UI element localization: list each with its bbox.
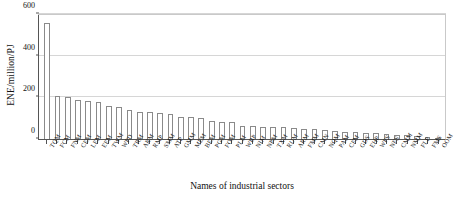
x-label-slot: GMM — [175, 144, 185, 178]
bar-slot — [42, 14, 52, 139]
bar-slot — [176, 14, 186, 139]
x-label-slot: FMS — [423, 144, 433, 178]
x-axis-title: Names of industrial sectors — [38, 181, 446, 191]
bar-slot — [207, 14, 217, 139]
x-label-slot: FMM — [299, 144, 309, 178]
y-tick-label: 400 — [23, 42, 39, 51]
x-label-slot: TWM — [103, 144, 113, 178]
x-label-slot: ARM — [134, 144, 144, 178]
y-axis-title: ENE/million/PJ — [0, 0, 22, 150]
x-label-slot: RMP — [144, 144, 154, 178]
x-label-slot: EEM — [93, 144, 103, 178]
bar-slot — [320, 14, 330, 139]
bar-slot — [340, 14, 350, 139]
x-label-slot: OOM — [433, 144, 443, 178]
x-label-slot: RUM — [278, 144, 288, 178]
bar-slot — [299, 14, 309, 139]
x-label-slot: SMM — [154, 144, 164, 178]
x-label-slot: BEM — [196, 144, 206, 178]
bar-slot — [248, 14, 258, 139]
bar-slot — [371, 14, 381, 139]
bar-slot — [114, 14, 124, 139]
x-label-slot: EHP — [361, 144, 371, 178]
x-label-slot: NIM — [247, 144, 257, 178]
bar-slot — [422, 14, 432, 139]
x-label-slot: MEM — [185, 144, 195, 178]
x-label-slot: FNM — [62, 144, 72, 178]
bar-slot — [63, 14, 73, 139]
x-label-slot: LEM — [82, 144, 92, 178]
x-label-slot: FCM — [51, 144, 61, 178]
x-label-slot: WPD — [113, 144, 123, 178]
bar-slot — [145, 14, 155, 139]
bar-slot — [104, 14, 114, 139]
x-label-slot: PAM — [330, 144, 340, 178]
bar-slot — [196, 14, 206, 139]
bar-slot — [237, 14, 247, 139]
bar-slot — [135, 14, 145, 139]
y-tick-label: 200 — [23, 84, 39, 93]
x-label-slot: CEM — [72, 144, 82, 178]
x-label-slot: TRM — [124, 144, 134, 178]
y-tick-label: 0 — [31, 126, 39, 135]
x-label-slot: CFM — [340, 144, 350, 178]
x-label-slot: PLM — [227, 144, 237, 178]
bar — [44, 23, 50, 139]
bar-slot — [402, 14, 412, 139]
bar-slot — [258, 14, 268, 139]
bar-slot — [93, 14, 103, 139]
bar-slot — [124, 14, 134, 139]
bar-series — [39, 14, 446, 139]
x-label-slot: ATP — [165, 144, 175, 178]
x-label-slot: WBP — [237, 144, 247, 178]
bar-slot — [412, 14, 422, 139]
bar-slot — [217, 14, 227, 139]
x-axis-tick-labels: TQMFCMFNMCEMLEMEEMTWMWPDTRMARMRMPSMMATPG… — [38, 144, 446, 178]
x-label-slot: CMM — [392, 144, 402, 178]
bar-slot — [186, 14, 196, 139]
x-label-slot: NPM — [258, 144, 268, 178]
bar-slot — [73, 14, 83, 139]
bar-slot — [289, 14, 299, 139]
bar-slot — [155, 14, 165, 139]
x-label-slot: TXM — [268, 144, 278, 178]
bar-slot — [330, 14, 340, 139]
bar-slot — [361, 14, 371, 139]
x-label-slot: NFS — [381, 144, 391, 178]
bar-slot — [278, 14, 288, 139]
x-label-slot: ARM — [289, 144, 299, 178]
bar-slot — [268, 14, 278, 139]
x-label-slot: PGM — [206, 144, 216, 178]
bar-slot — [350, 14, 360, 139]
bar-slot — [83, 14, 93, 139]
bar-slot — [52, 14, 62, 139]
x-label-slot: NQM — [319, 144, 329, 178]
x-label-slot: FLP — [412, 144, 422, 178]
bar-slot — [433, 14, 443, 139]
bar-slot — [381, 14, 391, 139]
plot-area: 0200400600 — [38, 14, 446, 140]
y-tick-label: 600 — [23, 1, 39, 10]
x-label-slot: WPS — [371, 144, 381, 178]
y-axis-title-text: ENE/million/PJ — [6, 44, 16, 106]
x-label-slot: FOM — [216, 144, 226, 178]
x-label-slot: TQM — [41, 144, 51, 178]
x-label-slot: NMM — [402, 144, 412, 178]
bar-slot — [392, 14, 402, 139]
bar-slot — [309, 14, 319, 139]
bar-slot — [165, 14, 175, 139]
x-label-slot: CMN — [309, 144, 319, 178]
bar-slot — [227, 14, 237, 139]
x-label-slot: GDS — [350, 144, 360, 178]
